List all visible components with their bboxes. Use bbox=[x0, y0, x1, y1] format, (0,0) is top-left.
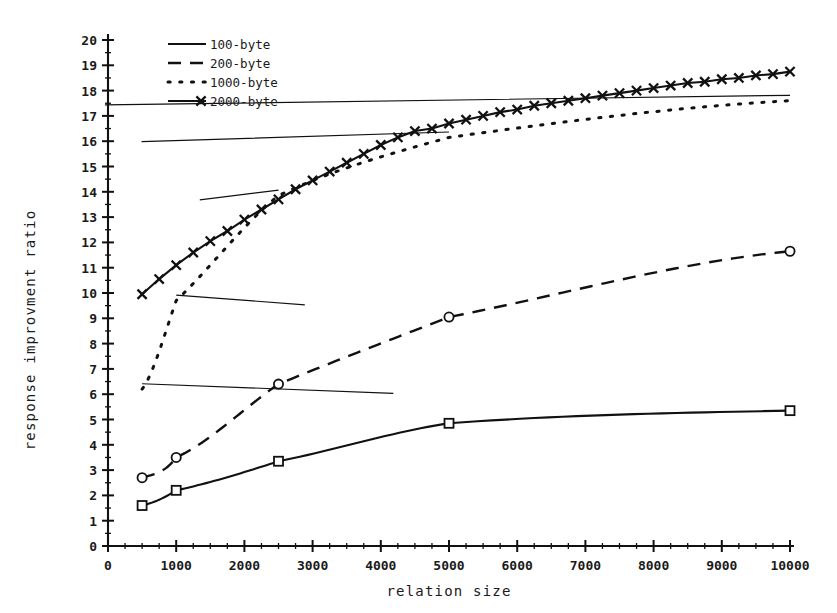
x-tick-label: 6000 bbox=[502, 558, 533, 573]
data-point-100-byte bbox=[445, 419, 454, 428]
series-line-100-byte bbox=[142, 411, 790, 506]
data-point-200-byte bbox=[138, 473, 147, 482]
legend-entry-200-byte: 200-byte bbox=[168, 56, 270, 71]
data-point-100-byte bbox=[274, 457, 283, 466]
data-point-1000-byte bbox=[105, 95, 790, 105]
x-tick-label: 7000 bbox=[570, 558, 601, 573]
x-tick-label: 4000 bbox=[365, 558, 396, 573]
y-tick-label: 14 bbox=[81, 185, 97, 200]
data-point-2000-byte bbox=[342, 158, 351, 167]
legend-entry-1000-byte: 1000-byte bbox=[168, 75, 278, 90]
y-tick-label: 2 bbox=[89, 488, 97, 503]
data-point-100-byte bbox=[138, 501, 147, 510]
legend-label-2000-byte: 2000-byte bbox=[210, 94, 278, 109]
y-tick-label: 15 bbox=[81, 160, 97, 175]
y-tick-label: 13 bbox=[81, 210, 97, 225]
series-line-1000-byte bbox=[142, 101, 790, 389]
data-point-2000-byte bbox=[155, 274, 164, 283]
x-axis-title: relation size bbox=[386, 583, 511, 599]
y-tick-label: 6 bbox=[89, 387, 97, 402]
legend-entry-100-byte: 100-byte bbox=[168, 37, 270, 52]
data-point-1000-byte bbox=[200, 190, 279, 200]
y-tick-label: 1 bbox=[89, 514, 97, 529]
y-tick-label: 18 bbox=[81, 84, 97, 99]
data-point-2000-byte bbox=[189, 248, 198, 257]
legend-label-100-byte: 100-byte bbox=[210, 37, 270, 52]
x-tick-label: 1000 bbox=[161, 558, 192, 573]
axes-layer bbox=[102, 34, 794, 552]
chart-legend: 100-byte200-byte1000-byte2000-byte bbox=[168, 37, 278, 109]
y-tick-label: 11 bbox=[81, 261, 97, 276]
y-tick-label: 0 bbox=[89, 539, 97, 554]
x-tick-label: 0 bbox=[104, 558, 112, 573]
data-point-1000-byte bbox=[176, 295, 305, 305]
x-tick-label: 5000 bbox=[433, 558, 464, 573]
x-tick-label: 8000 bbox=[638, 558, 669, 573]
markers-layer bbox=[105, 67, 795, 510]
data-point-200-byte bbox=[172, 453, 181, 462]
legend-label-200-byte: 200-byte bbox=[210, 56, 270, 71]
y-tick-label: 17 bbox=[81, 109, 97, 124]
data-point-1000-byte bbox=[142, 384, 393, 394]
data-point-2000-byte bbox=[206, 237, 215, 246]
data-point-2000-byte bbox=[172, 261, 181, 270]
data-point-200-byte bbox=[274, 379, 283, 388]
data-point-2000-byte bbox=[138, 290, 147, 299]
x-tick-label: 3000 bbox=[297, 558, 328, 573]
data-point-200-byte bbox=[444, 312, 453, 321]
data-point-2000-byte bbox=[223, 226, 232, 235]
y-tick-label: 9 bbox=[89, 311, 97, 326]
y-tick-label: 3 bbox=[89, 463, 97, 478]
chart-figure: 0123456789101112131415161718192001000200… bbox=[0, 0, 837, 613]
y-tick-label: 7 bbox=[89, 362, 97, 377]
series-layer bbox=[142, 72, 790, 506]
y-tick-label: 16 bbox=[81, 134, 97, 149]
y-tick-label: 19 bbox=[81, 58, 97, 73]
y-tick-label: 20 bbox=[81, 33, 97, 48]
y-tick-label: 10 bbox=[81, 286, 97, 301]
data-point-100-byte bbox=[786, 406, 795, 415]
chart-canvas: 0123456789101112131415161718192001000200… bbox=[0, 0, 837, 613]
y-tick-label: 8 bbox=[89, 337, 97, 352]
series-line-200-byte bbox=[142, 251, 790, 477]
y-tick-label: 5 bbox=[89, 413, 97, 428]
legend-label-1000-byte: 1000-byte bbox=[210, 75, 278, 90]
data-point-2000-byte bbox=[359, 149, 368, 158]
data-point-2000-byte bbox=[240, 215, 249, 224]
x-tick-label: 2000 bbox=[229, 558, 260, 573]
x-tick-label: 9000 bbox=[706, 558, 737, 573]
y-tick-label: 4 bbox=[89, 438, 97, 453]
data-point-2000-byte bbox=[376, 140, 385, 149]
data-point-200-byte bbox=[785, 247, 794, 256]
data-point-100-byte bbox=[172, 486, 181, 495]
x-tick-label: 10000 bbox=[770, 558, 809, 573]
tick-labels-layer: 0123456789101112131415161718192001000200… bbox=[81, 33, 809, 573]
legend-entry-2000-byte: 2000-byte bbox=[168, 94, 278, 109]
y-axis-title: response improvment ratio bbox=[22, 210, 38, 451]
data-point-2000-byte bbox=[325, 167, 334, 176]
y-tick-label: 12 bbox=[81, 235, 97, 250]
